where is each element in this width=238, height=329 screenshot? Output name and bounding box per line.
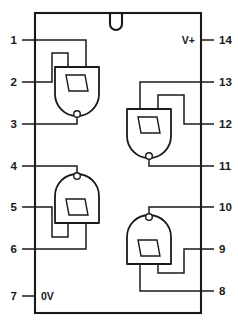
- wire-pin6-to-gate-b-input: [35, 223, 86, 249]
- ic-pinout-diagram: 1 2 3 4 5 6 7 14 13 12 11 10 9 8 V+ 0V: [0, 0, 238, 329]
- pin-label-7: 7: [11, 290, 17, 302]
- rail-label-vplus: V+: [182, 34, 195, 46]
- wire-gate-a-output-to-pin3: [35, 117, 77, 124]
- wire-gate-b-output-to-pin4: [35, 166, 77, 173]
- pin-labels-right: 14 13 12 11 10 9 8: [219, 34, 232, 297]
- pin-label-14: 14: [219, 34, 232, 46]
- gate-a: [55, 67, 99, 117]
- package-notch-icon: [110, 13, 122, 30]
- gate-b: [55, 173, 99, 223]
- pin-label-11: 11: [219, 160, 232, 172]
- gate-d: [127, 214, 171, 264]
- pin-label-3: 3: [11, 118, 17, 130]
- wire-gate-d-output-to-pin10: [149, 207, 201, 214]
- package-body-rect: [35, 13, 201, 313]
- pin-label-1: 1: [11, 34, 18, 46]
- pin-label-2: 2: [11, 76, 17, 88]
- gate-d-inversion-bubble-icon: [146, 214, 153, 221]
- wire-gate-c-output-to-pin11: [149, 159, 201, 166]
- pin-leads-left: [22, 40, 35, 296]
- pin-label-9: 9: [219, 243, 225, 255]
- wire-pin8-to-gate-d-input: [140, 264, 201, 291]
- gate-c: [127, 109, 171, 159]
- pin-label-12: 12: [219, 118, 232, 130]
- ic-pinout-svg: 1 2 3 4 5 6 7 14 13 12 11 10 9 8 V+ 0V: [0, 0, 238, 329]
- pin-leads-right: [201, 40, 214, 291]
- pin-label-8: 8: [219, 285, 226, 297]
- rail-label-0v: 0V: [41, 290, 54, 302]
- gate-a-inversion-bubble-icon: [74, 111, 81, 118]
- pin-label-13: 13: [219, 76, 232, 88]
- pin-label-10: 10: [219, 201, 232, 213]
- gate-c-inversion-bubble-icon: [146, 153, 153, 160]
- package-outline-group: [35, 13, 201, 313]
- pin-label-4: 4: [11, 160, 18, 172]
- pin-label-5: 5: [11, 201, 18, 213]
- gate-b-inversion-bubble-icon: [74, 173, 81, 180]
- pin-labels-left: 1 2 3 4 5 6 7: [11, 34, 18, 302]
- pin-label-6: 6: [11, 243, 17, 255]
